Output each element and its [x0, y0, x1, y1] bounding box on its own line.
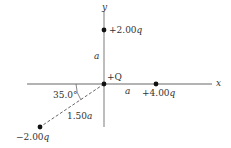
- distance-label-right: a: [125, 86, 130, 96]
- charge-dot-top: [102, 28, 107, 33]
- charge-dot-lower-left: [38, 125, 43, 130]
- distance-label-lower-left: 1.50a: [67, 111, 92, 121]
- charge-label-center: +Q: [107, 72, 122, 82]
- charge-dot-right: [154, 82, 159, 87]
- charge-label-top: +2.00q: [109, 25, 143, 35]
- x-axis-label: x: [216, 78, 221, 88]
- charge-label-lower-left: −2.00q: [16, 132, 50, 142]
- angle-label: 35.0°: [53, 90, 78, 100]
- charge-dot-center: [102, 82, 107, 87]
- distance-label-top: a: [94, 51, 99, 61]
- charge-diagram: y x +Q +2.00q +4.00q −2.00q a a 1.50a 35…: [0, 0, 231, 148]
- y-axis-label: y: [101, 2, 108, 12]
- charge-label-right: +4.00q: [142, 88, 176, 98]
